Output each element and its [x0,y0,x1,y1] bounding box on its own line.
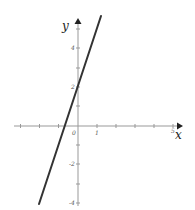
y-tick-label-neg4: -4 [69,199,75,206]
origin-label: 0 [72,129,76,136]
y-axis-label: y [61,19,69,33]
x-axis-label: x [175,128,182,142]
y-tick-label-neg2: -2 [69,160,75,167]
y-axis-arrow-icon [75,18,82,24]
coordinate-plane: 0 1 5 4 2 -2 -4 y x [0,0,195,210]
y-tick-label-2: 2 [70,83,75,90]
x-tick-label-1: 1 [95,129,99,136]
y-tick-label-4: 4 [70,44,75,51]
graph-line [39,16,101,204]
